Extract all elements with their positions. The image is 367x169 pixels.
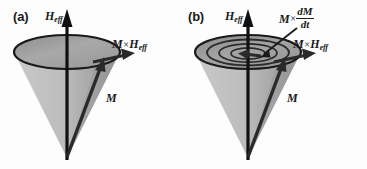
h-eff-subscript: eff	[234, 15, 242, 24]
panel-b-tag: (b)	[188, 10, 204, 23]
torque-m-symbol: M	[293, 37, 304, 51]
torque-m-symbol: M	[112, 37, 123, 51]
panel-a: (a) Heff M×Heff M	[0, 0, 184, 169]
panel-b-h-eff-label: Heff	[225, 10, 242, 24]
panel-b-torque-label: M×Heff	[293, 38, 328, 52]
torque-h-subscript: eff	[320, 43, 328, 52]
torque-h-subscript: eff	[139, 43, 147, 52]
panel-a-m-label: M	[106, 92, 117, 104]
panel-b: (b) Heff M×dMdt M×Heff M	[183, 0, 367, 169]
h-eff-symbol: H	[45, 9, 54, 23]
dmdt-numerator: dM	[296, 6, 313, 18]
torque-h-symbol: H	[310, 37, 319, 51]
panel-b-damping-label: M×dMdt	[279, 6, 314, 31]
panel-a-h-eff-label: Heff	[45, 10, 62, 24]
figure-container: (a) Heff M×Heff M	[0, 0, 367, 169]
panel-a-graphic	[0, 0, 184, 169]
dmdt-denominator: dt	[296, 19, 313, 31]
h-eff-subscript: eff	[54, 15, 62, 24]
panel-a-tag: (a)	[13, 10, 28, 23]
damping-m-symbol: M	[279, 13, 290, 25]
panel-b-m-label: M	[287, 92, 298, 104]
damping-times-symbol: ×	[290, 14, 297, 24]
dmdt-fraction: dMdt	[296, 6, 313, 31]
torque-h-symbol: H	[129, 37, 138, 51]
h-eff-symbol: H	[225, 9, 234, 23]
panel-a-torque-label: M×Heff	[112, 38, 147, 52]
panel-b-graphic	[183, 0, 367, 169]
